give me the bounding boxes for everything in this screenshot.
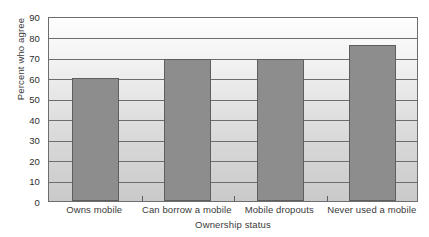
y-tick-label: 30 [29,135,40,146]
y-tick-label: 90 [29,12,40,23]
x-axis-title: Ownership status [48,219,418,230]
bar [72,78,119,201]
x-tick-mark [327,196,328,201]
y-tick-label: 50 [29,94,40,105]
x-tick-mark [234,196,235,201]
y-tick-label: 40 [29,114,40,125]
y-tick-label: 60 [29,73,40,84]
y-tick-label: 70 [29,53,40,64]
x-axis-category-labels: Owns mobileCan borrow a mobileMobile dro… [48,204,418,218]
y-tick-label: 10 [29,176,40,187]
y-tick-label: 20 [29,155,40,166]
category-label: Mobile dropouts [245,204,314,215]
category-label: Never used a mobile [327,204,416,215]
bar [257,59,304,201]
gridline [49,38,417,39]
plot-area [48,17,418,202]
y-tick-label: 80 [29,32,40,43]
bar [164,59,211,201]
y-tick-label: 0 [35,197,40,208]
x-tick-mark [142,196,143,201]
bar-chart-figure: Percent who agree 0102030405060708090 Ow… [0,0,429,237]
category-label: Can borrow a mobile [142,204,232,215]
bar [349,45,396,201]
category-label: Owns mobile [66,204,122,215]
y-axis-tick-labels: 0102030405060708090 [0,0,44,237]
